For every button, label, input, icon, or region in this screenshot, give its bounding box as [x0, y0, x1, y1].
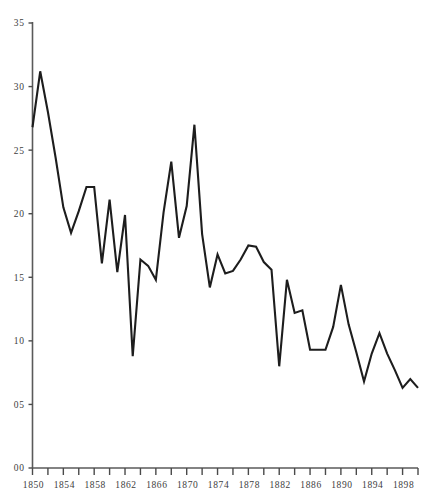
x-tick-label: 1850: [23, 480, 44, 490]
x-tick-label: 1886: [300, 480, 321, 490]
chart-svg: 0005101520253035 18501854185818621866187…: [0, 0, 435, 501]
y-tick-label: 20: [14, 209, 25, 219]
x-tick-label: 1894: [362, 480, 383, 490]
y-axis: 0005101520253035: [14, 18, 33, 473]
y-tick-group: 0005101520253035: [14, 18, 33, 473]
x-tick-label: 1858: [84, 480, 105, 490]
x-axis: 1850185418581862186618701874187818821886…: [23, 468, 418, 490]
data-series-line: [33, 71, 419, 388]
x-tick-label: 1870: [177, 480, 198, 490]
y-tick-label: 35: [14, 18, 25, 28]
y-tick-label: 15: [14, 273, 25, 283]
x-tick-label: 1862: [115, 480, 136, 490]
x-tick-label: 1854: [54, 480, 75, 490]
x-tick-label: 1882: [270, 480, 291, 490]
x-tick-label: 1878: [239, 480, 260, 490]
x-tick-label: 1890: [331, 480, 352, 490]
x-tick-label: 1866: [146, 480, 167, 490]
y-tick-label: 30: [14, 82, 25, 92]
line-chart: 0005101520253035 18501854185818621866187…: [0, 0, 435, 501]
x-tick-label: 1898: [393, 480, 414, 490]
y-tick-label: 05: [14, 400, 25, 410]
x-tick-group: 1850185418581862186618701874187818821886…: [23, 468, 418, 490]
y-tick-label: 00: [14, 463, 25, 473]
y-tick-label: 10: [14, 336, 25, 346]
y-tick-label: 25: [14, 146, 25, 156]
x-tick-label: 1874: [208, 480, 229, 490]
